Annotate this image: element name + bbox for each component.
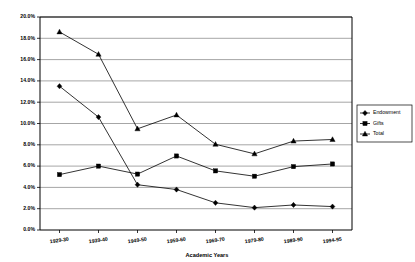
y-tick-label: 20.0% — [20, 13, 35, 19]
data-point-gifts-7 — [330, 162, 334, 166]
data-point-gifts-3 — [174, 154, 178, 158]
data-point-gifts-2 — [135, 172, 139, 176]
data-point-gifts-4 — [213, 169, 217, 173]
chart-background — [0, 0, 415, 262]
y-tick-label: 12.0% — [20, 99, 35, 105]
y-tick-label: 14.0% — [20, 77, 35, 83]
legend-label: Endowment — [373, 109, 401, 115]
y-tick-label: 0.0% — [23, 226, 35, 232]
data-point-gifts-6 — [291, 165, 295, 169]
data-point-gifts-5 — [252, 174, 256, 178]
legend-marker-gifts — [363, 121, 367, 125]
y-tick-label: 4.0% — [23, 184, 35, 190]
y-tick-label: 18.0% — [20, 35, 35, 41]
chart-canvas: 0.0%2.0%4.0%6.0%8.0%10.0%12.0%14.0%16.0%… — [0, 0, 415, 262]
y-tick-label: 2.0% — [23, 205, 35, 211]
y-tick-label: 6.0% — [23, 162, 35, 168]
data-point-gifts-1 — [96, 164, 100, 168]
y-tick-label: 8.0% — [23, 141, 35, 147]
y-tick-label: 16.0% — [20, 56, 35, 62]
y-tick-label: 10.0% — [20, 120, 35, 126]
x-axis-title: Academic Years — [186, 252, 229, 258]
line-chart: 0.0%2.0%4.0%6.0%8.0%10.0%12.0%14.0%16.0%… — [0, 0, 415, 262]
legend: EndowmentGiftsTotal — [357, 105, 412, 142]
legend-label: Total — [373, 130, 384, 136]
legend-label: Gifts — [373, 120, 384, 126]
data-point-gifts-0 — [57, 173, 61, 177]
